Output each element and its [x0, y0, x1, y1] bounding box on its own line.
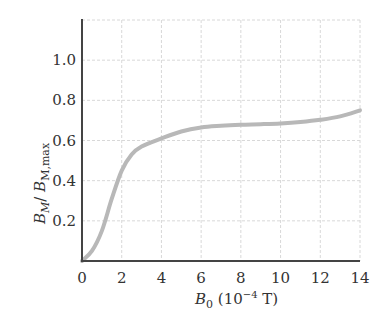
x-tick-label: 14: [350, 269, 369, 287]
x-tick-label: 6: [196, 269, 206, 287]
x-tick-label: 2: [117, 269, 127, 287]
y-tick-label: 0.4: [52, 172, 76, 190]
line-chart: 02468101214 0.20.40.60.81.0 B0 (10−4 T) …: [0, 0, 385, 324]
y-axis-label: BM/ BM,max: [31, 142, 52, 225]
data-series: [82, 110, 360, 261]
y-tick-label: 0.8: [52, 91, 76, 109]
x-axis-label: B0 (10−4 T): [194, 289, 278, 311]
x-tick-label: 10: [271, 269, 290, 287]
x-tick-label: 8: [236, 269, 246, 287]
y-tick-label: 0.6: [52, 132, 76, 150]
y-tick-label: 0.2: [52, 212, 76, 230]
series-line: [82, 110, 360, 261]
gridlines: [82, 20, 360, 261]
y-tick-labels: 0.20.40.60.81.0: [52, 51, 76, 230]
x-tick-label: 12: [311, 269, 330, 287]
x-tick-label: 4: [157, 269, 167, 287]
x-tick-labels: 02468101214: [77, 269, 369, 287]
y-tick-label: 1.0: [52, 51, 76, 69]
x-tick-label: 0: [77, 269, 87, 287]
